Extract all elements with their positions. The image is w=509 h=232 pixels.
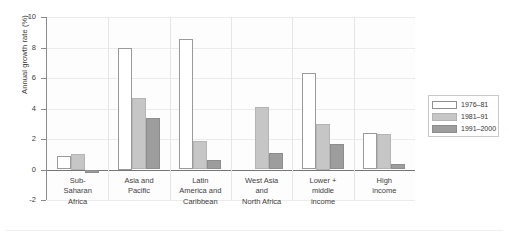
bar xyxy=(132,98,146,170)
bar xyxy=(363,133,377,170)
legend-swatch-icon xyxy=(432,101,457,109)
bar xyxy=(377,134,391,170)
x-axis-category-label: High income xyxy=(354,176,415,197)
y-axis-tick-label: -2 xyxy=(4,196,36,204)
legend-item[interactable]: 1991–2000 xyxy=(432,123,495,134)
x-axis-category-label: Lower + middle income xyxy=(292,176,353,208)
legend-swatch-icon xyxy=(432,113,457,121)
group-separator xyxy=(354,17,355,200)
bar-chart: Annual growth rate (%) 1086420-2 Sub- Sa… xyxy=(0,0,509,232)
bar xyxy=(330,144,344,170)
y-axis-tick xyxy=(41,48,46,49)
group-separator xyxy=(170,17,171,200)
y-axis-tick-label: 4 xyxy=(4,105,36,113)
y-axis-tick xyxy=(41,17,46,18)
y-axis-tick xyxy=(41,78,46,79)
legend[interactable]: 1976–81 1981–91 1991–2000 xyxy=(428,95,499,137)
bar xyxy=(255,107,269,170)
bar xyxy=(146,118,160,169)
plot-area xyxy=(47,17,415,200)
group-separator xyxy=(231,17,232,200)
y-axis-tick xyxy=(41,139,46,140)
y-axis-tick-label: 6 xyxy=(4,74,36,82)
bar xyxy=(57,156,71,170)
bar xyxy=(302,73,316,169)
legend-item-label: 1991–2000 xyxy=(461,125,496,132)
page-rule-divider xyxy=(6,230,503,231)
y-axis-tick xyxy=(41,109,46,110)
legend-item[interactable]: 1981–91 xyxy=(432,111,495,122)
group-separator xyxy=(108,17,109,200)
y-axis-tick-label: 10 xyxy=(4,13,36,21)
y-axis-tick-label: 2 xyxy=(4,135,36,143)
bar xyxy=(85,170,99,174)
legend-item-label: 1976–81 xyxy=(461,101,488,108)
bar xyxy=(207,160,221,169)
legend-swatch-icon xyxy=(432,125,457,133)
bar xyxy=(316,124,330,170)
bar xyxy=(179,39,193,169)
y-axis-tick-label: 0 xyxy=(4,166,36,174)
y-axis-tick xyxy=(41,200,46,201)
legend-item-label: 1981–91 xyxy=(461,113,488,120)
legend-item[interactable]: 1976–81 xyxy=(432,99,495,110)
y-axis-tick-label: 8 xyxy=(4,44,36,52)
bar xyxy=(269,153,283,170)
bar xyxy=(391,164,405,169)
x-axis-category-label: West Asia and North Africa xyxy=(231,176,292,208)
x-axis-category-label: Asia and Pacific xyxy=(108,176,169,197)
bar xyxy=(118,48,132,170)
x-axis-category-label: Latin America and Caribbean xyxy=(170,176,231,208)
bar xyxy=(71,154,85,169)
y-axis-tick xyxy=(41,170,46,171)
x-axis-category-label: Sub- Saharan Africa xyxy=(47,176,108,208)
group-separator xyxy=(292,17,293,200)
bar xyxy=(193,141,207,169)
